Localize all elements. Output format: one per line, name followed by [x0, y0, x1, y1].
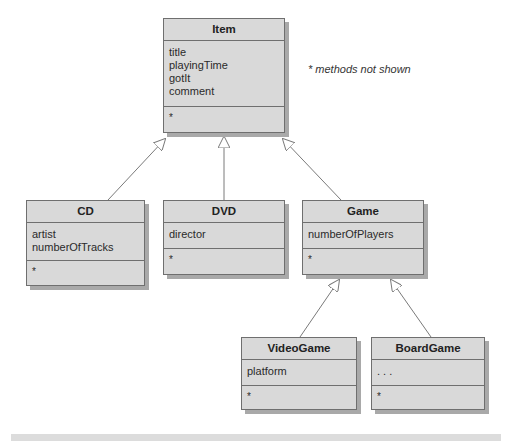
- method: *: [32, 265, 139, 278]
- class-methods: *: [164, 107, 284, 126]
- class-methods: *: [372, 386, 484, 405]
- class-dvd: DVD director *: [163, 200, 285, 275]
- uml-diagram: Item title playingTime gotIt comment * *…: [0, 0, 510, 441]
- class-name: Game: [303, 201, 423, 223]
- class-fields: artist numberOfTracks: [27, 223, 144, 261]
- class-name: Item: [164, 19, 284, 41]
- field: platform: [247, 365, 351, 378]
- field: artist: [32, 228, 139, 241]
- class-boardgame: BoardGame . . . *: [371, 337, 485, 410]
- field: gotIt: [169, 72, 279, 85]
- class-fields: platform: [242, 360, 356, 386]
- bottom-divider-bar: [11, 434, 501, 441]
- field: playingTime: [169, 59, 279, 72]
- class-item: Item title playingTime gotIt comment *: [163, 18, 285, 133]
- class-methods: *: [27, 261, 144, 280]
- method: *: [377, 390, 479, 403]
- class-name: CD: [27, 201, 144, 223]
- field: director: [169, 228, 279, 241]
- cd-to-item-arrow: [108, 139, 165, 200]
- boardgame-to-game-arrow: [391, 280, 431, 337]
- class-name: VideoGame: [242, 338, 356, 360]
- method: *: [169, 111, 279, 124]
- method: *: [308, 253, 418, 266]
- class-name: DVD: [164, 201, 284, 223]
- class-methods: *: [164, 249, 284, 268]
- class-fields: . . .: [372, 360, 484, 386]
- videogame-to-game-arrow: [300, 280, 339, 337]
- method: *: [169, 253, 279, 266]
- class-cd: CD artist numberOfTracks *: [26, 200, 145, 286]
- class-methods: *: [242, 386, 356, 405]
- field: numberOfPlayers: [308, 228, 418, 241]
- game-to-item-arrow: [283, 139, 341, 200]
- class-fields: title playingTime gotIt comment: [164, 41, 284, 107]
- class-fields: director: [164, 223, 284, 249]
- class-methods: *: [303, 249, 423, 268]
- field: comment: [169, 85, 279, 98]
- class-name: BoardGame: [372, 338, 484, 360]
- class-game: Game numberOfPlayers *: [302, 200, 424, 275]
- method: *: [247, 390, 351, 403]
- field: numberOfTracks: [32, 241, 139, 254]
- class-videogame: VideoGame platform *: [241, 337, 357, 410]
- methods-note: * methods not shown: [308, 63, 411, 75]
- field: title: [169, 46, 279, 59]
- class-fields: numberOfPlayers: [303, 223, 423, 249]
- field: . . .: [377, 365, 479, 378]
